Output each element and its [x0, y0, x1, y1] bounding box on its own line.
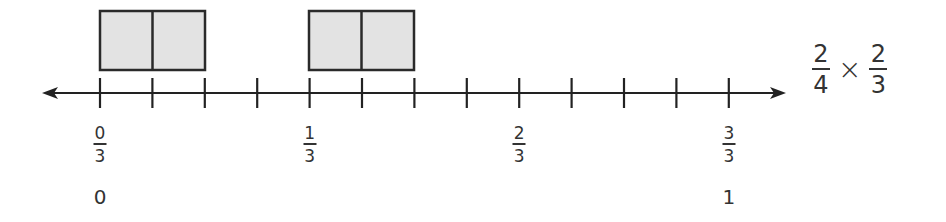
- numerator: 2: [514, 124, 525, 142]
- numerator: 2: [813, 42, 828, 66]
- times-operator: ×: [838, 53, 861, 86]
- number-line-diagram: [0, 0, 946, 222]
- numerator: 3: [723, 124, 734, 142]
- fraction-bar: [94, 143, 107, 145]
- tick-fraction-label: 03: [94, 124, 107, 165]
- fraction-bar: [869, 68, 887, 70]
- tick-fraction-label: 33: [722, 124, 735, 165]
- denominator: 3: [304, 147, 315, 165]
- denominator: 3: [95, 147, 106, 165]
- whole-number-label: 0: [94, 185, 107, 209]
- denominator: 3: [514, 147, 525, 165]
- fraction-right: 2 3: [869, 42, 887, 97]
- denominator: 3: [871, 73, 886, 97]
- denominator: 3: [723, 147, 734, 165]
- fraction-bar: [513, 143, 526, 145]
- denominator: 4: [813, 73, 828, 97]
- whole-number-label: 1: [722, 185, 735, 209]
- numerator: 2: [871, 42, 886, 66]
- tick-fraction-label: 23: [513, 124, 526, 165]
- tick-fraction-label: 13: [303, 124, 316, 165]
- numerator: 0: [95, 124, 106, 142]
- multiplication-expression: 2 4 × 2 3: [812, 42, 887, 97]
- fraction-bar: [303, 143, 316, 145]
- fraction-left: 2 4: [812, 42, 830, 97]
- fraction-bar: [812, 68, 830, 70]
- number-line-svg: [0, 0, 946, 222]
- numerator: 1: [304, 124, 315, 142]
- fraction-bar: [722, 143, 735, 145]
